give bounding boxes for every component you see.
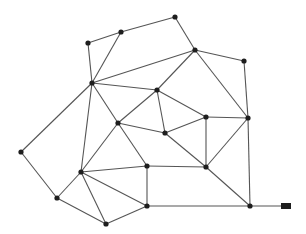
node-B [118, 29, 123, 34]
edge-H-I [118, 123, 165, 133]
node-A [85, 40, 90, 45]
node-O [203, 164, 208, 169]
edge-F-L [21, 83, 92, 152]
terminal-node [281, 203, 291, 209]
edge-L-P [21, 152, 57, 198]
edge-P-Q [57, 198, 106, 224]
edge-I-J [165, 117, 206, 133]
edge-I-O [165, 133, 206, 167]
node-S [247, 203, 252, 208]
edge-Q-R [106, 206, 147, 224]
node-M [78, 169, 83, 174]
edge-K-S [248, 118, 250, 206]
node-L [18, 149, 23, 154]
edge-G-J [157, 90, 206, 117]
node-R [144, 203, 149, 208]
edge-C-D [175, 17, 195, 50]
node-D [192, 47, 197, 52]
network-graph [0, 0, 306, 234]
edge-F-G [92, 83, 157, 90]
node-J [203, 114, 208, 119]
node-E [241, 58, 246, 63]
edge-G-H [118, 90, 157, 123]
edge-N-O [147, 166, 206, 167]
node-F [89, 80, 94, 85]
edge-P-M [57, 172, 81, 198]
node-I [162, 130, 167, 135]
edge-M-R [81, 172, 147, 206]
edge-M-N [81, 166, 147, 172]
edge-K-O [206, 118, 248, 167]
edge-M-Q [81, 172, 106, 224]
edge-F-M [81, 83, 92, 172]
node-G [154, 87, 159, 92]
edge-F-H [92, 83, 118, 123]
node-Q [103, 221, 108, 226]
edge-G-I [157, 90, 165, 133]
node-N [144, 163, 149, 168]
node-C [172, 14, 177, 19]
node-H [115, 120, 120, 125]
edge-H-N [118, 123, 147, 166]
edge-A-F [88, 43, 92, 83]
node-K [245, 115, 250, 120]
edge-E-K [244, 61, 248, 118]
graph-edges [21, 17, 286, 224]
node-P [54, 195, 59, 200]
edge-J-K [206, 117, 248, 118]
edge-O-S [206, 167, 250, 206]
edge-B-C [121, 17, 175, 32]
